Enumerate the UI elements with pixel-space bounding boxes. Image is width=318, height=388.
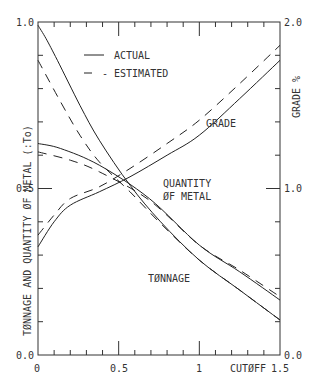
y-right-tick-1.0: 1.0 xyxy=(284,183,302,194)
x-tick-1.5: 1.5 xyxy=(271,363,289,374)
y-left-tick-1.0: 1.0 xyxy=(16,17,34,28)
legend-estimated-label: - ESTIMATED xyxy=(102,68,168,79)
x-tick-0: 0 xyxy=(34,363,40,374)
annotation-tonnage: TØNNAGE xyxy=(148,273,190,284)
chart: 0 0.5 1 CUTØFF 1.5 1.0 0.5 0.0 2.0 1.0 0… xyxy=(0,0,318,388)
annotation-of-metal: ØF METAL xyxy=(163,191,211,202)
y-left-tick-0.0: 0.0 xyxy=(16,350,34,361)
annotation-grade: GRADE xyxy=(206,118,236,129)
x-tick-1: 1 xyxy=(196,363,202,374)
legend-actual-label: ACTUAL xyxy=(114,50,150,61)
y-right-tick-0.0: 0.0 xyxy=(284,350,302,361)
y-right-tick-2.0: 2.0 xyxy=(284,17,302,28)
y-right-axis-label: GRADE % xyxy=(291,76,302,118)
x-tick-0.5: 0.5 xyxy=(110,363,128,374)
x-axis-label: CUTØFF xyxy=(230,363,266,374)
annotation-quantity: QUANTITY xyxy=(163,178,211,189)
y-left-axis-label: TØNNAGE AND QUANTITY ØF METAL (:To) xyxy=(22,125,33,336)
